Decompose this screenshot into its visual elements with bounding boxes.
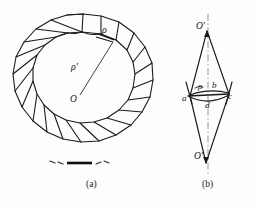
label-rho-panel-a: ρ: [102, 25, 107, 35]
figure-canvas: [0, 0, 256, 206]
upper-right-edge: [207, 31, 229, 94]
label-point-d-panel-b: d: [205, 101, 210, 110]
label-point-c-panel-b: c: [228, 92, 232, 101]
caption-panel-a: (a): [86, 180, 97, 190]
caption-panel-b: (b): [202, 180, 213, 190]
label-point-a-panel-b: a: [182, 94, 187, 103]
label-O-prime-bottom-panel-b: O': [194, 152, 203, 162]
rho-prime-leader-line: [80, 42, 113, 95]
inner-ring-boundary: [33, 32, 135, 123]
panel-b-lens-construction: [186, 31, 232, 163]
label-rho-prime-panel-a: ρ': [71, 62, 78, 72]
label-centre-O-panel-a: O: [70, 95, 77, 105]
label-rho-panel-b: ρ: [198, 82, 202, 91]
panel-a-grain-ring: [13, 14, 153, 142]
figure-root: ρ ρ' O O' O' ρ b a c d (a) (b): [0, 0, 256, 206]
label-point-b-panel-b: b: [212, 81, 217, 90]
apex-arrowheads: [203, 31, 210, 163]
chord-ac: [188, 94, 229, 96]
label-O-prime-top-panel-b: O': [196, 22, 205, 32]
